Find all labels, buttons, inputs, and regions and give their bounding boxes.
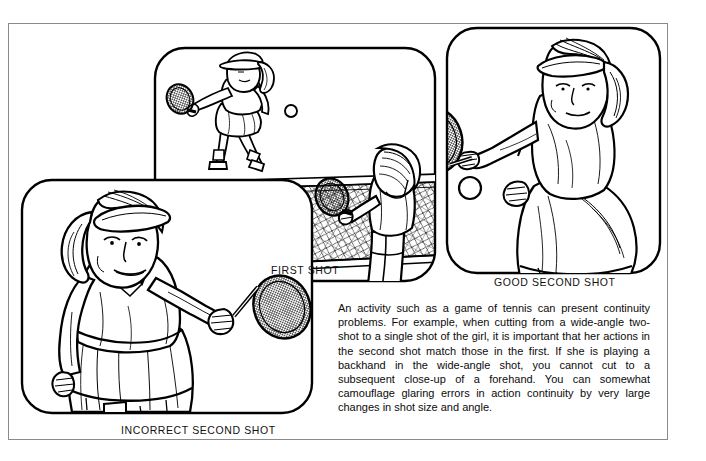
page-root: FIRST SHOT GOOD SECOND SHOT INCORRECT SE…	[0, 0, 706, 461]
caption-good-second-shot: GOOD SECOND SHOT	[494, 276, 616, 288]
caption-incorrect-second-shot: INCORRECT SECOND SHOT	[121, 424, 276, 436]
tennis-ball-first-shot	[285, 105, 297, 117]
body-copy-paragraph: An activity such as a game of tennis can…	[338, 301, 650, 415]
panel-incorrect-second-shot	[22, 180, 320, 413]
tennis-ball-good-shot	[459, 177, 481, 199]
caption-first-shot: FIRST SHOT	[271, 264, 339, 276]
